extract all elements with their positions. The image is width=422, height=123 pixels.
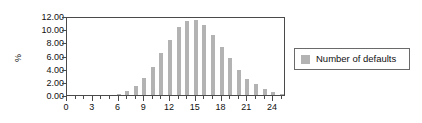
x-axis-minor-tick	[229, 96, 230, 99]
x-axis-major-tick	[66, 96, 67, 101]
x-axis-tick-marks	[66, 96, 285, 101]
bar	[134, 86, 138, 95]
x-axis-tick-label: 0	[56, 102, 76, 113]
x-axis-tick-label: 15	[185, 102, 205, 113]
x-axis-minor-tick	[126, 96, 127, 99]
y-axis-tick-label: 12.00	[24, 13, 64, 22]
y-axis-tick-mark	[62, 17, 66, 18]
bar	[280, 94, 284, 95]
x-axis-minor-tick	[281, 96, 282, 99]
x-axis-minor-tick	[212, 96, 213, 99]
x-axis-minor-tick	[135, 96, 136, 99]
bar	[185, 21, 189, 95]
x-axis-minor-tick	[75, 96, 76, 99]
x-axis-major-tick	[221, 96, 222, 101]
x-axis-major-tick	[246, 96, 247, 101]
y-axis-tick-mark	[62, 70, 66, 71]
bar	[202, 25, 206, 95]
x-axis-minor-tick	[100, 96, 101, 99]
x-axis-minor-tick	[186, 96, 187, 99]
x-axis-major-tick	[143, 96, 144, 101]
x-axis-major-tick	[169, 96, 170, 101]
x-axis-tick-label: 21	[236, 102, 256, 113]
y-axis-tick-mark	[62, 83, 66, 84]
bar	[125, 91, 129, 95]
x-axis-minor-tick	[203, 96, 204, 99]
bar-series	[67, 18, 284, 95]
x-axis-minor-tick	[109, 96, 110, 99]
x-axis-major-tick	[272, 96, 273, 101]
bar	[151, 67, 155, 95]
x-axis-minor-tick	[238, 96, 239, 99]
plot-area	[66, 17, 285, 96]
x-axis-minor-tick	[160, 96, 161, 99]
y-axis-tick-mark	[62, 57, 66, 58]
bar	[254, 84, 258, 95]
y-axis-tick-label: 4.00	[24, 66, 64, 75]
y-axis-tick-mark	[62, 30, 66, 31]
bar	[237, 70, 241, 95]
bar	[245, 79, 249, 95]
x-axis-major-tick	[118, 96, 119, 101]
legend-label: Number of defaults	[316, 54, 396, 64]
y-axis-tick-label: 6.00	[24, 53, 64, 62]
bar	[228, 58, 232, 95]
bar	[142, 78, 146, 95]
bar	[194, 20, 198, 95]
x-axis-tick-label: 9	[133, 102, 153, 113]
x-axis-tick-label: 12	[159, 102, 179, 113]
bar	[159, 53, 163, 95]
bar	[263, 89, 267, 95]
x-axis-major-tick	[195, 96, 196, 101]
x-axis-minor-tick	[83, 96, 84, 99]
bar	[168, 40, 172, 95]
bar	[117, 94, 121, 95]
y-axis-tick-label: 2.00	[24, 79, 64, 88]
x-axis-minor-tick	[178, 96, 179, 99]
x-axis-tick-label: 6	[108, 102, 128, 113]
y-axis-tick-labels: 0.002.004.006.008.0010.0012.00	[24, 12, 64, 102]
x-axis-tick-label: 3	[82, 102, 102, 113]
y-axis-tick-label: 8.00	[24, 39, 64, 48]
y-axis-tick-mark	[62, 43, 66, 44]
x-axis-minor-tick	[255, 96, 256, 99]
x-axis-tick-label: 18	[211, 102, 231, 113]
legend-swatch-icon	[301, 55, 310, 64]
bar	[177, 27, 181, 95]
bar	[211, 35, 215, 95]
y-axis-tick-label: 10.00	[24, 26, 64, 35]
x-axis-major-tick	[92, 96, 93, 101]
chart-figure: % 0.002.004.006.008.0010.0012.00 0369121…	[0, 0, 422, 123]
y-axis-tick-mark	[62, 96, 66, 97]
x-axis-tick-label: 24	[262, 102, 282, 113]
bar	[271, 92, 275, 95]
bar	[220, 47, 224, 95]
x-axis-minor-tick	[264, 96, 265, 99]
y-axis-tick-label: 0.00	[24, 92, 64, 101]
legend: Number of defaults	[294, 48, 410, 70]
x-axis-tick-labels: 03691215182124	[66, 102, 285, 116]
x-axis-minor-tick	[152, 96, 153, 99]
